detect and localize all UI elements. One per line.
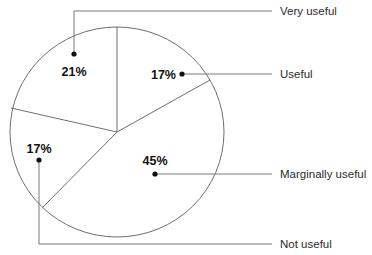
percent-label-marginally-useful: 45% — [142, 154, 167, 168]
pie-chart-canvas: 21% Very useful 17% Useful 45% Marginall… — [0, 0, 372, 255]
percent-label-not-useful: 17% — [26, 142, 51, 156]
percent-label-useful: 17% — [151, 68, 176, 82]
leader-dot-marginally-useful — [152, 171, 157, 176]
percent-label-very-useful: 21% — [61, 65, 86, 79]
pie-chart: 21% Very useful 17% Useful 45% Marginall… — [0, 0, 372, 255]
leader-dot-useful — [179, 71, 184, 76]
category-label-useful: Useful — [280, 68, 313, 80]
leader-dot-not-useful — [36, 157, 41, 162]
category-label-not-useful: Not useful — [280, 238, 332, 250]
leader-dot-very-useful — [71, 51, 76, 56]
category-label-very-useful: Very useful — [280, 5, 337, 17]
category-label-marginally-useful: Marginally useful — [280, 168, 366, 180]
